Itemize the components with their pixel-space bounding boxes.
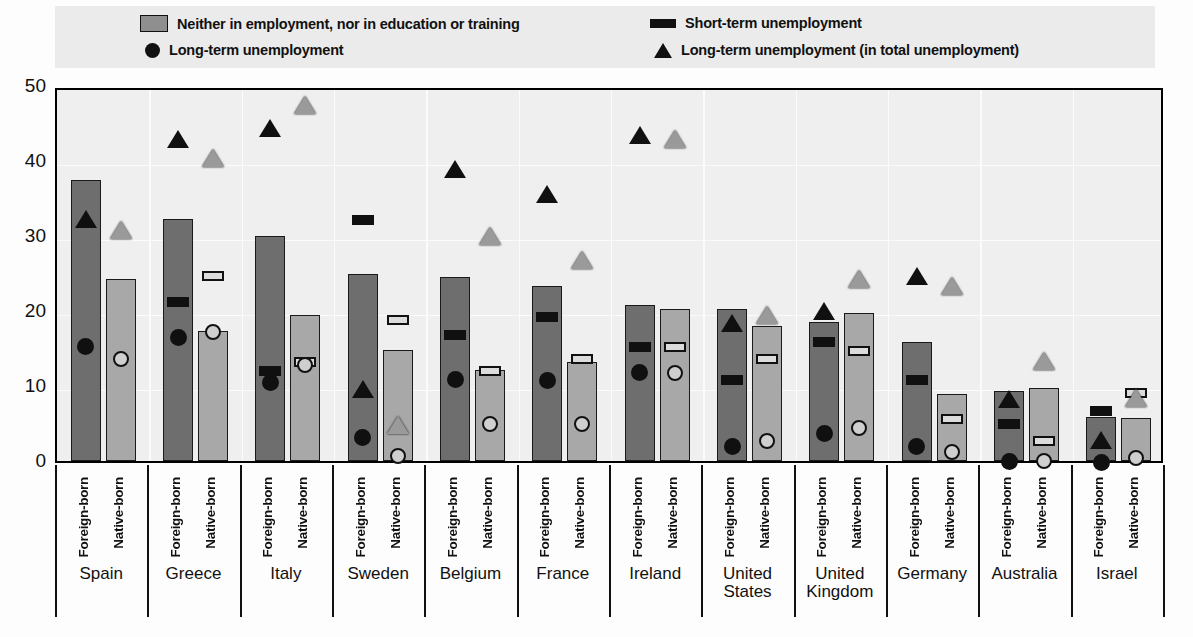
x-category-label-france: France xyxy=(517,565,609,583)
marker-short-term-united-states-native-born xyxy=(756,354,778,364)
x-sublabel-united-kingdom-native-born: Native-born xyxy=(849,477,864,549)
marker-short-term-united-kingdom-native-born xyxy=(848,346,870,356)
gridline-x-4 xyxy=(426,90,427,461)
marker-long-term-total-united-kingdom-foreign-born xyxy=(813,302,835,320)
marker-short-term-australia-native-born xyxy=(1033,436,1055,446)
marker-short-term-belgium-native-born xyxy=(479,366,501,376)
black-bar-swatch-icon xyxy=(650,19,676,28)
marker-long-term-total-australia-foreign-born xyxy=(998,390,1020,408)
marker-long-term-total-germany-foreign-born xyxy=(906,267,928,285)
gridline-x-7 xyxy=(703,90,704,461)
x-sublabel-germany-native-born: Native-born xyxy=(942,477,957,549)
marker-short-term-united-states-foreign-born xyxy=(721,375,743,385)
x-group-separator-2 xyxy=(240,465,242,617)
marker-short-term-united-kingdom-foreign-born xyxy=(813,337,835,347)
y-tick-label-40: 40 xyxy=(2,150,46,172)
x-category-label-ireland: Ireland xyxy=(609,565,701,583)
marker-long-term-france-native-born xyxy=(574,416,590,432)
y-tick-label-10: 10 xyxy=(2,375,46,397)
marker-long-term-total-ireland-foreign-born xyxy=(629,126,651,144)
black-triangle-swatch-icon xyxy=(654,43,672,58)
marker-short-term-germany-native-born xyxy=(941,414,963,424)
x-group-separator-3 xyxy=(332,465,334,617)
x-category-label-italy: Italy xyxy=(240,565,332,583)
x-sublabel-australia-foreign-born: Foreign-born xyxy=(999,477,1014,557)
marker-long-term-belgium-native-born xyxy=(482,416,498,432)
x-group-separator-10 xyxy=(978,465,980,617)
marker-short-term-greece-foreign-born xyxy=(167,297,189,307)
bar-australia-native-born xyxy=(1029,388,1059,462)
gridline-x-11 xyxy=(1073,90,1074,461)
bar-france-native-born xyxy=(567,362,597,461)
x-sublabel-sweden-native-born: Native-born xyxy=(388,477,403,549)
legend-item-long: Long-term unemployment xyxy=(140,42,343,58)
bar-spain-native-born xyxy=(106,279,136,461)
chart-legend: Neither in employment, nor in education … xyxy=(55,6,1155,68)
marker-long-term-total-germany-native-born xyxy=(941,277,963,295)
x-axis: Foreign-bornNative-bornSpainForeign-born… xyxy=(55,465,1163,635)
marker-long-term-total-israel-native-born xyxy=(1125,389,1147,407)
marker-long-term-total-united-states-foreign-born xyxy=(721,314,743,332)
x-sublabel-united-states-native-born: Native-born xyxy=(757,477,772,549)
legend-item-neither: Neither in employment, nor in education … xyxy=(140,15,520,32)
y-tick-label-30: 30 xyxy=(2,225,46,247)
legend-item-long-total: Long-term unemployment (in total unemplo… xyxy=(650,42,1019,58)
chart-page: Neither in employment, nor in education … xyxy=(0,0,1193,637)
marker-long-term-total-israel-foreign-born xyxy=(1090,431,1112,449)
plot-area xyxy=(55,88,1163,463)
marker-long-term-belgium-foreign-born xyxy=(447,371,464,388)
marker-long-term-sweden-foreign-born xyxy=(354,429,371,446)
legend-label-neither: Neither in employment, nor in education … xyxy=(177,16,520,32)
marker-long-term-total-united-kingdom-native-born xyxy=(848,270,870,288)
marker-long-term-total-greece-foreign-born xyxy=(167,130,189,148)
x-group-separator-1 xyxy=(147,465,149,617)
legend-label-long: Long-term unemployment xyxy=(169,42,343,58)
x-category-label-belgium: Belgium xyxy=(424,565,516,583)
marker-long-term-total-sweden-native-born xyxy=(387,416,409,434)
black-circle-swatch-icon xyxy=(145,43,160,58)
legend-label-long-total: Long-term unemployment (in total unemplo… xyxy=(681,42,1019,58)
x-sublabel-spain-foreign-born: Foreign-born xyxy=(76,477,91,557)
x-sublabel-france-foreign-born: Foreign-born xyxy=(537,477,552,557)
marker-long-term-total-france-foreign-born xyxy=(536,185,558,203)
gridline-y-30 xyxy=(57,240,1161,241)
x-sublabel-ireland-native-born: Native-born xyxy=(665,477,680,549)
x-group-separator-9 xyxy=(886,465,888,617)
x-group-separator-4 xyxy=(424,465,426,617)
gridline-x-8 xyxy=(796,90,797,461)
legend-label-short: Short-term unemployment xyxy=(685,15,862,31)
gridline-x-5 xyxy=(519,90,520,461)
x-group-separator-12 xyxy=(1163,465,1165,617)
bar-ireland-foreign-born xyxy=(625,305,655,461)
x-sublabel-ireland-foreign-born: Foreign-born xyxy=(630,477,645,557)
x-category-label-germany: Germany xyxy=(886,565,978,583)
x-category-label-spain: Spain xyxy=(55,565,147,583)
x-sublabel-united-states-foreign-born: Foreign-born xyxy=(722,477,737,557)
x-category-label-israel: Israel xyxy=(1071,565,1163,583)
marker-long-term-israel-native-born xyxy=(1128,450,1144,466)
x-group-separator-0 xyxy=(55,465,57,617)
gridline-x-9 xyxy=(888,90,889,461)
bar-united-kingdom-native-born xyxy=(844,313,874,462)
marker-long-term-ireland-native-born xyxy=(667,365,683,381)
marker-short-term-ireland-foreign-born xyxy=(629,342,651,352)
marker-short-term-sweden-foreign-born xyxy=(352,215,374,225)
marker-long-term-spain-native-born xyxy=(113,351,129,367)
bar-greece-native-born xyxy=(198,331,228,462)
marker-short-term-belgium-foreign-born xyxy=(444,330,466,340)
bar-italy-foreign-born xyxy=(255,236,285,461)
x-sublabel-australia-native-born: Native-born xyxy=(1034,477,1049,549)
bar-ireland-native-born xyxy=(660,309,690,461)
marker-long-term-germany-foreign-born xyxy=(908,438,925,455)
marker-short-term-sweden-native-born xyxy=(387,315,409,325)
marker-long-term-total-belgium-native-born xyxy=(479,227,501,245)
marker-long-term-germany-native-born xyxy=(944,444,960,460)
x-sublabel-france-native-born: Native-born xyxy=(572,477,587,549)
gridline-y-20 xyxy=(57,315,1161,316)
marker-short-term-france-native-born xyxy=(571,354,593,364)
gridline-x-1 xyxy=(149,90,150,461)
x-sublabel-belgium-foreign-born: Foreign-born xyxy=(445,477,460,557)
x-sublabel-belgium-native-born: Native-born xyxy=(480,477,495,549)
x-category-label-united-states: United States xyxy=(701,565,793,602)
marker-long-term-greece-foreign-born xyxy=(170,329,187,346)
